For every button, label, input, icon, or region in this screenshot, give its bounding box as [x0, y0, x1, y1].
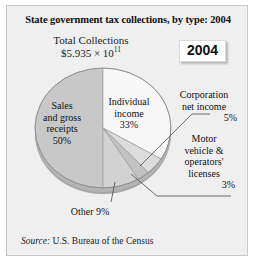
callout-corporation-line1: Corporation — [165, 89, 243, 101]
pie-label-sales-percent: 50% — [29, 135, 95, 147]
pie-label-sales-line3: receipts — [29, 123, 95, 135]
pie-label-other-text: Other 9% — [49, 206, 131, 218]
chart-figure: State government tax collections, by typ… — [6, 5, 248, 256]
pie-label-individual-line1: Individual — [99, 96, 159, 108]
pie-label-other: Other 9% — [49, 206, 131, 218]
pie-label-individual-percent: 33% — [99, 119, 159, 131]
source-line: Source: U.S. Bureau of the Census — [21, 236, 153, 246]
callout-corporation-line2: net income — [165, 101, 243, 113]
pie-label-sales-line1: Sales — [29, 100, 95, 112]
callout-motor-line2: vehicle & — [167, 145, 241, 157]
callout-motor-line4: licenses — [167, 168, 241, 180]
callout-corporation-percent: 5% — [165, 112, 243, 124]
pie-label-sales-and-gross-receipts: Sales and gross receipts 50% — [29, 100, 95, 146]
pie-label-sales-line2: and gross — [29, 112, 95, 124]
callout-motor-line1: Motor — [167, 133, 241, 145]
source-text: U.S. Bureau of the Census — [53, 236, 154, 246]
callout-motor-line3: operators' — [167, 156, 241, 168]
source-label: Source: — [21, 236, 50, 246]
pie-label-individual-income: Individual income 33% — [99, 96, 159, 131]
pie-label-individual-line2: income — [99, 108, 159, 120]
callout-motor-percent: 3% — [167, 179, 241, 191]
callout-motor-vehicle-licenses: Motor vehicle & operators' licenses 3% — [167, 133, 241, 191]
callout-corporation-net-income: Corporation net income 5% — [165, 89, 243, 124]
